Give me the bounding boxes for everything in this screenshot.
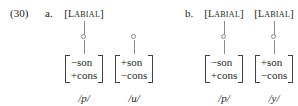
- feature-row: +cons: [71, 69, 97, 82]
- subexample-a-branches: [LABIAL] −son +cons /p/ [LABIAL]: [59, 0, 159, 104]
- example-number: (30): [10, 7, 28, 19]
- association-line: [269, 21, 280, 54]
- autosegmental-diagram: (30) a. [LABIAL] −son +cons /p/ [LABIAL]: [0, 0, 298, 106]
- subexample-a-label: a.: [45, 7, 53, 19]
- subexample-b: b. [LABIAL] −son +cons /p/ [LABIAL]: [185, 0, 298, 106]
- feature-row: +son: [261, 56, 287, 69]
- branch-p: [LABIAL] −son +cons /p/: [199, 0, 249, 104]
- feature-matrix: −son +cons: [205, 55, 243, 83]
- phoneme-label: /p/: [218, 92, 230, 104]
- feature-matrix: −son +cons: [65, 55, 103, 83]
- phoneme-label: /p/: [78, 92, 90, 104]
- feature-row: +cons: [211, 69, 237, 82]
- branch-p: [LABIAL] −son +cons /p/: [59, 0, 109, 104]
- node-label-labial: [LABIAL]: [254, 7, 294, 19]
- association-line-upper: [274, 21, 275, 35]
- phoneme-label: /u/: [128, 92, 140, 104]
- node-label-labial: [LABIAL]: [204, 7, 244, 19]
- association-line-lower: [274, 40, 275, 54]
- subexample-b-label: b.: [185, 7, 193, 19]
- root-node-circle-icon: [221, 34, 226, 39]
- root-node-circle-icon: [81, 34, 86, 39]
- association-line: [79, 21, 90, 54]
- association-line-lower: [134, 40, 135, 54]
- subexample-b-branches: [LABIAL] −son +cons /p/ [LABIAL]: [199, 0, 298, 104]
- feature-matrix: +son −cons: [115, 55, 153, 83]
- subexample-a: a. [LABIAL] −son +cons /p/ [LABIAL]: [45, 0, 165, 106]
- association-line-upper: [84, 21, 85, 35]
- feature-row: +son: [121, 56, 147, 69]
- feature-row: −son: [211, 56, 237, 69]
- root-node-circle-icon: [131, 34, 136, 39]
- feature-matrix: +son −cons: [255, 55, 293, 83]
- association-line: [129, 21, 140, 54]
- branch-u: [LABIAL] +son −cons /u/: [109, 0, 159, 104]
- association-line: [219, 21, 230, 54]
- association-line-upper: [224, 21, 225, 35]
- phoneme-label: /y/: [269, 92, 280, 104]
- association-line-lower: [224, 40, 225, 54]
- branch-y: [LABIAL] +son −cons /y/: [249, 0, 298, 104]
- root-node-circle-icon: [271, 34, 276, 39]
- feature-row: −cons: [261, 69, 287, 82]
- feature-row: −son: [71, 56, 97, 69]
- node-label-labial: [LABIAL]: [64, 7, 104, 19]
- association-line-lower: [84, 40, 85, 54]
- feature-row: −cons: [121, 69, 147, 82]
